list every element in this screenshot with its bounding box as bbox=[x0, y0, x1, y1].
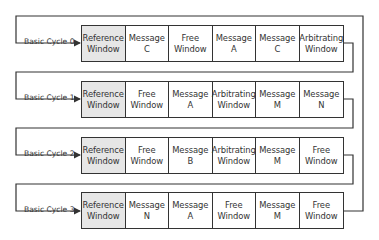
arbitrating-window-cell: ArbitratingWindow bbox=[213, 82, 257, 117]
free-window-cell: FreeWindow bbox=[300, 138, 344, 173]
message-n-cell: MessageN bbox=[300, 82, 344, 117]
message-m-cell: MessageM bbox=[256, 193, 300, 228]
row-label-basic-cycle-0: Basic Cycle 0 bbox=[24, 37, 78, 46]
basic-cycle-2-row: ReferenceWindow FreeWindow MessageB Arbi… bbox=[81, 137, 344, 174]
reference-window-cell: ReferenceWindow bbox=[82, 193, 126, 228]
message-b-cell: MessageB bbox=[169, 138, 213, 173]
message-a-cell: MessageA bbox=[169, 193, 213, 228]
basic-cycle-1-row: ReferenceWindow FreeWindow MessageA Arbi… bbox=[81, 81, 344, 118]
cycle-matrix-diagram: Basic Cycle 0 Basic Cycle 1 Basic Cycle … bbox=[0, 0, 379, 240]
message-a-cell: MessageA bbox=[213, 26, 257, 61]
free-window-cell: FreeWindow bbox=[126, 82, 170, 117]
basic-cycle-0-row: ReferenceWindow MessageC FreeWindow Mess… bbox=[81, 25, 344, 62]
reference-window-cell: ReferenceWindow bbox=[82, 138, 126, 173]
arbitrating-window-cell: ArbitratingWindow bbox=[213, 138, 257, 173]
message-c-cell: MessageC bbox=[126, 26, 170, 61]
row-label-basic-cycle-1: Basic Cycle 1 bbox=[24, 93, 78, 102]
free-window-cell: FreeWindow bbox=[300, 193, 344, 228]
row-label-basic-cycle-3: Basic Cycle 3 bbox=[24, 205, 78, 214]
message-m-cell: MessageM bbox=[256, 138, 300, 173]
reference-window-cell: ReferenceWindow bbox=[82, 26, 126, 61]
message-a-cell: MessageA bbox=[169, 82, 213, 117]
free-window-cell: FreeWindow bbox=[213, 193, 257, 228]
message-m-cell: MessageM bbox=[256, 82, 300, 117]
basic-cycle-3-row: ReferenceWindow MessageN MessageA FreeWi… bbox=[81, 192, 344, 229]
message-n-cell: MessageN bbox=[126, 193, 170, 228]
free-window-cell: FreeWindow bbox=[126, 138, 170, 173]
free-window-cell: FreeWindow bbox=[169, 26, 213, 61]
message-c-cell: MessageC bbox=[256, 26, 300, 61]
row-label-basic-cycle-2: Basic Cycle 2 bbox=[24, 149, 78, 158]
arbitrating-window-cell: ArbitratingWindow bbox=[300, 26, 344, 61]
reference-window-cell: ReferenceWindow bbox=[82, 82, 126, 117]
